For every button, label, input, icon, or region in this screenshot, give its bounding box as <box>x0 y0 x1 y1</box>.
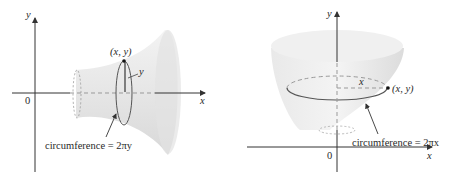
left-circumference-label: circumference = 2πy <box>45 140 133 151</box>
left-figure: y x 0 (x, y) y circumference = 2πy <box>12 9 205 172</box>
right-origin-label: 0 <box>327 150 332 161</box>
right-figure: y x 0 (x, y) x circumference = 2πx <box>247 8 440 172</box>
right-y-axis-label: y <box>326 8 332 19</box>
left-x-axis-label: x <box>199 95 205 106</box>
left-origin-label: 0 <box>25 95 30 106</box>
right-x-axis-label: x <box>426 150 432 161</box>
diagram-svg: y x 0 (x, y) y circumference = 2πy y x 0… <box>0 0 464 187</box>
right-circumference-pointer <box>366 104 378 134</box>
right-point-label: (x, y) <box>392 83 414 95</box>
left-point-marker <box>122 59 126 63</box>
right-circumference-label: circumference = 2πx <box>352 137 440 148</box>
left-y-axis-label: y <box>25 9 31 20</box>
figure-canvas: y x 0 (x, y) y circumference = 2πy y x 0… <box>0 0 464 187</box>
right-radius-label: x <box>358 76 364 87</box>
right-point-marker <box>386 86 390 90</box>
left-radius-label: y <box>138 66 144 77</box>
horn-right-rim <box>155 30 181 154</box>
left-point-label: (x, y) <box>110 46 132 58</box>
